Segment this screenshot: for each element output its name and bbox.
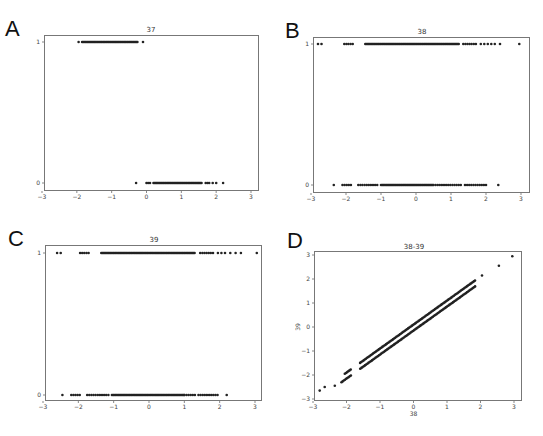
svg-text:−3: −3 <box>301 395 310 402</box>
svg-text:−2: −2 <box>342 403 351 410</box>
svg-text:38: 38 <box>410 410 418 417</box>
svg-text:0: 0 <box>412 403 416 410</box>
scatter-plot-d: −3−2−10123−3−2−101233839 <box>0 0 543 436</box>
svg-text:0: 0 <box>306 323 310 330</box>
svg-text:2: 2 <box>479 403 483 410</box>
svg-text:2: 2 <box>306 275 310 282</box>
svg-text:1: 1 <box>445 403 449 410</box>
svg-text:39: 39 <box>294 323 301 331</box>
svg-text:−3: −3 <box>309 403 318 410</box>
svg-text:−2: −2 <box>301 371 310 378</box>
svg-text:−1: −1 <box>301 347 310 354</box>
svg-text:−1: −1 <box>376 403 385 410</box>
svg-text:3: 3 <box>512 403 516 410</box>
svg-text:3: 3 <box>306 251 310 258</box>
svg-text:1: 1 <box>306 299 310 306</box>
